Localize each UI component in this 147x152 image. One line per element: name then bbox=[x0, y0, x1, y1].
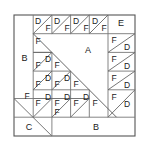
label-F-r4c0: F bbox=[24, 91, 29, 101]
label-F-r5c1: F bbox=[54, 107, 59, 117]
label-F-r2c1: F bbox=[35, 60, 40, 70]
label-D-r4c2: D bbox=[64, 92, 70, 102]
label-F-r4c5: F bbox=[111, 92, 116, 102]
label-D-r0c3: D bbox=[73, 16, 79, 26]
label-D-r3c2: D bbox=[64, 73, 70, 83]
label-piece-C: C bbox=[26, 122, 33, 132]
label-F-r3c3: F bbox=[73, 79, 78, 89]
label-F-r2c2: F bbox=[54, 60, 59, 70]
label-D-r1c5: D bbox=[124, 42, 130, 52]
label-piece-B1: B bbox=[21, 53, 27, 63]
label-F-r3c5: F bbox=[111, 73, 116, 83]
label-F-r4c3: F bbox=[73, 98, 78, 108]
dissection-svg: A B B C E D F D F D F D F F D F D F D F … bbox=[0, 0, 147, 152]
label-F-r4c1: F bbox=[35, 98, 40, 108]
label-D-r2c5: D bbox=[124, 61, 130, 71]
label-piece-B2: B bbox=[93, 122, 99, 132]
label-F-r0c2: F bbox=[64, 23, 69, 33]
label-F-r2c5: F bbox=[111, 54, 116, 64]
label-D-r0c4: D bbox=[92, 16, 98, 26]
label-piece-E: E bbox=[118, 18, 124, 28]
label-F-r3c1: F bbox=[35, 79, 40, 89]
label-D-r2c1: D bbox=[45, 54, 51, 64]
label-F-r0c4: F bbox=[101, 23, 106, 33]
label-D-r3c1: D bbox=[45, 73, 51, 83]
label-F-r0c3: F bbox=[83, 23, 88, 33]
label-F-r0c1: F bbox=[45, 23, 50, 33]
label-D-r4c1: D bbox=[45, 92, 51, 102]
label-D-r4c5: D bbox=[124, 99, 130, 109]
label-F-r1c5: F bbox=[111, 35, 116, 45]
label-D-r0c2: D bbox=[54, 16, 60, 26]
label-F-r1c1: F bbox=[35, 36, 40, 46]
label-F-r3c2: F bbox=[54, 79, 59, 89]
dissection-figure: A B B C E D F D F D F D F F D F D F D F … bbox=[0, 0, 147, 152]
label-piece-A: A bbox=[85, 45, 91, 55]
label-F-r4c4: F bbox=[92, 98, 97, 108]
label-D-r3c5: D bbox=[124, 80, 130, 90]
label-D-r4c3: D bbox=[83, 92, 89, 102]
label-D-r0c1: D bbox=[35, 16, 41, 26]
